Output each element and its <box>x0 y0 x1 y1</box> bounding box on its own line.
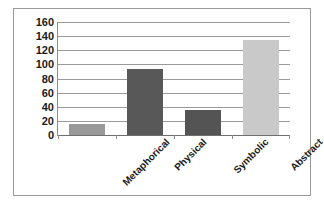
bar-chart-figure: 160140120100806040200 MetaphoricalPhysic… <box>0 0 324 214</box>
x-category-label: Symbolic <box>232 137 271 176</box>
bar-abstract <box>243 40 279 135</box>
y-tick-label: 80 <box>42 73 54 84</box>
y-tick-label: 40 <box>42 101 54 112</box>
bar-symbolic <box>185 110 221 135</box>
y-tick-label: 60 <box>42 87 54 98</box>
bars-group <box>58 22 290 135</box>
y-tick-label: 120 <box>36 45 54 56</box>
y-axis-tick-labels: 160140120100806040200 <box>18 22 54 135</box>
bar-metaphorical <box>69 124 105 135</box>
x-axis-category-labels: MetaphoricalPhysicalSymbolicAbstract <box>58 137 290 192</box>
y-tick-label: 0 <box>48 130 54 141</box>
y-tick-label: 140 <box>36 31 54 42</box>
plot-area <box>58 22 290 135</box>
y-tick-label: 100 <box>36 59 54 70</box>
y-tick-label: 160 <box>36 17 54 28</box>
x-category-label: Physical <box>173 137 209 173</box>
y-tick-label: 20 <box>42 115 54 126</box>
bar-physical <box>127 69 163 135</box>
x-category-label: Metaphorical <box>121 137 172 188</box>
